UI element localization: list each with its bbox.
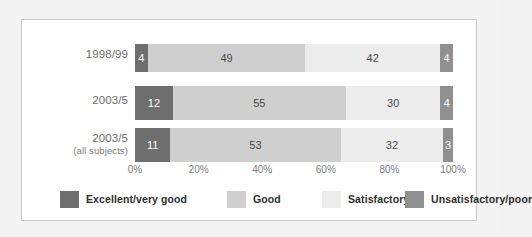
segment-value: 11 [147,139,158,151]
stacked-bar: 449424 [135,44,453,72]
segment-value: 4 [444,52,450,64]
legend-swatch-icon [405,191,424,208]
legend-label: Satisfactory [348,193,409,205]
legend-swatch-icon [227,191,246,208]
axis-tick-label: 60% [316,164,336,175]
axis-tick-label: 0% [128,164,142,175]
axis-tick-label: 80% [379,164,399,175]
segment-value: 3 [445,139,451,151]
legend-item[interactable]: Satisfactory [322,191,409,208]
axis-tick-label: 40% [252,164,272,175]
legend-swatch-icon [322,191,341,208]
bar-segment-unsatisfactory: 4 [440,44,453,72]
segment-value: 12 [148,97,160,109]
axis-tick-label: 100% [440,164,466,175]
bar-segment-excellent: 4 [135,44,148,72]
segment-value: 53 [249,139,261,151]
stacked-bar: 1153323 [135,128,453,162]
legend-item[interactable]: Excellent/very good [60,191,187,208]
chart-legend: Excellent/very goodGoodSatisfactoryUnsat… [30,186,470,212]
segment-value: 49 [220,52,232,64]
stacked-bar: 1255304 [135,86,453,120]
row-label: 1998/99 [22,48,128,60]
segment-value: 32 [386,139,398,151]
bar-segment-satisfactory: 42 [305,44,440,72]
row-sublabel: (all subjects) [22,145,128,156]
bar-segment-excellent: 12 [135,86,173,120]
segment-value: 4 [444,97,450,109]
legend-swatch-icon [60,191,79,208]
segment-value: 30 [387,97,399,109]
axis-tick-label: 20% [189,164,209,175]
row-label: 2003/5(all subjects) [22,132,128,156]
legend-label: Good [253,193,281,205]
legend-label: Excellent/very good [86,193,187,205]
bar-segment-good: 49 [148,44,305,72]
bar-segment-good: 55 [173,86,346,120]
segment-value: 42 [367,52,379,64]
chart-card: 1998/994494242003/512553042003/5(all sub… [21,19,477,221]
bar-segment-satisfactory: 32 [341,128,444,162]
row-label: 2003/5 [22,94,128,106]
bar-segment-good: 53 [170,128,340,162]
bar-segment-excellent: 11 [135,128,170,162]
segment-value: 55 [253,97,265,109]
x-axis: 0%20%40%60%80%100% [135,164,453,180]
segment-value: 4 [138,52,144,64]
bar-segment-unsatisfactory: 4 [440,86,453,120]
legend-label: Unsatisfactory/poor [431,193,532,205]
bar-segment-satisfactory: 30 [346,86,440,120]
legend-item[interactable]: Unsatisfactory/poor [405,191,532,208]
bar-segment-unsatisfactory: 3 [443,128,453,162]
legend-item[interactable]: Good [227,191,281,208]
